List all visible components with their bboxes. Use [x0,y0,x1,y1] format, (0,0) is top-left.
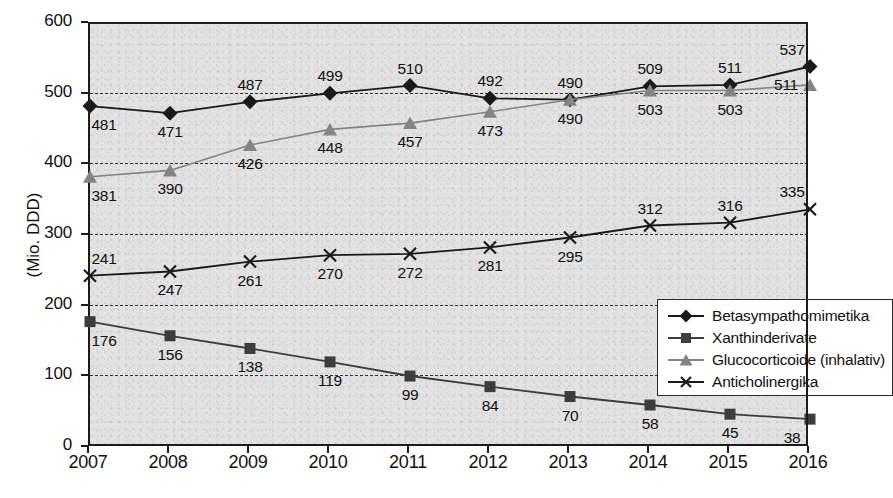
data-point-label: 241 [81,250,127,268]
plot-right-border [806,22,808,446]
data-point-label: 509 [627,60,673,78]
x-axis-tick-label: 2010 [288,452,368,473]
data-point-label: 156 [147,346,193,364]
data-point-label: 247 [147,281,193,299]
data-point-label: 511 [707,59,753,77]
data-point-label: 272 [387,264,433,282]
y-axis-title: (Mio. DDD) [24,165,44,305]
cross-icon [666,373,706,391]
data-point-label: 381 [81,187,127,205]
data-point-label: 487 [227,76,273,94]
data-point-label: 473 [467,122,513,140]
legend-label: Anticholinergika [712,373,818,391]
data-point-label: 70 [547,407,593,425]
legend-item-anticholinergika[interactable]: Anticholinergika [666,371,884,393]
data-point-label: 426 [227,155,273,173]
data-point-label: 119 [307,372,353,390]
x-axis-tick-label: 2009 [208,452,288,473]
triangle-icon [666,351,706,369]
data-point-label: 537 [769,41,815,59]
legend: Betasympathomimetika Xanthinderivate [657,299,893,396]
y-axis-tick-label: 500 [10,82,72,102]
x-axis-tick-mark [807,446,809,453]
legend-label: Xanthinderivate [712,329,817,347]
x-axis-tick-mark [87,446,89,453]
x-axis-tick-mark [487,446,489,453]
x-axis-tick-mark [647,446,649,453]
x-axis-tick-mark [727,446,729,453]
x-axis-tick-label: 2014 [608,452,688,473]
x-axis-tick-mark [167,446,169,453]
data-point-label: 503 [707,101,753,119]
data-point-label: 503 [627,101,673,119]
plot-area: 4814714874995104924905095115371761561381… [88,22,808,446]
data-point-label: 499 [307,67,353,85]
data-point-label: 295 [547,248,593,266]
diamond-icon [666,307,706,325]
x-axis-tick-label: 2016 [768,452,848,473]
legend-item-xanthinderivate[interactable]: Xanthinderivate [666,327,884,349]
legend-item-betasympathomimetika[interactable]: Betasympathomimetika [666,305,884,327]
y-axis-tick-mark [81,21,88,23]
legend-item-glucocorticoide[interactable]: Glucocorticoide (inhalativ) [666,349,884,371]
x-axis-tick-mark [567,446,569,453]
square-icon [666,329,706,347]
y-axis-tick-mark [81,304,88,306]
data-point-label: 312 [627,200,673,218]
data-point-label: 490 [547,110,593,128]
data-point-label: 138 [227,358,273,376]
x-axis-tick-label: 2015 [688,452,768,473]
data-point-label: 390 [147,180,193,198]
data-point-label: 38 [769,429,815,447]
y-axis-tick-label: 600 [10,11,72,31]
data-point-label: 261 [227,272,273,290]
legend-label: Betasympathomimetika [712,307,869,325]
x-axis-tick-label: 2008 [128,452,208,473]
x-axis-tick-mark [407,446,409,453]
data-point-label: 492 [467,72,513,90]
data-point-label: 281 [467,257,513,275]
x-axis-tick-label: 2012 [448,452,528,473]
y-axis-title-text: (Mio. DDD) [24,193,43,278]
data-point-label: 335 [769,183,815,201]
legend-label: Glucocorticoide (inhalativ) [712,351,885,369]
data-point-label: 510 [387,60,433,78]
data-point-label: 457 [387,133,433,151]
x-axis-tick-mark [327,446,329,453]
data-point-label: 99 [387,386,433,404]
data-point-label: 490 [547,74,593,92]
data-point-label: 471 [147,123,193,141]
x-axis-tick-label: 2011 [368,452,448,473]
x-axis-tick-mark [247,446,249,453]
y-axis-tick-label: 100 [10,364,72,384]
data-point-label: 84 [467,397,513,415]
y-axis-tick-mark [81,92,88,94]
plot-top-border [88,22,808,24]
data-point-label: 316 [707,197,753,215]
y-axis-tick-mark [81,233,88,235]
data-point-label: 176 [81,332,127,350]
y-axis-tick-mark [81,162,88,164]
data-point-label: 448 [307,139,353,157]
x-axis-tick-label: 2007 [48,452,128,473]
x-axis-tick-label: 2013 [528,452,608,473]
data-point-label: 481 [81,116,127,134]
y-axis-tick-mark [81,374,88,376]
data-point-label: 45 [707,424,753,442]
data-point-label: 511 [763,76,809,94]
data-point-label: 270 [307,265,353,283]
data-point-label: 58 [627,415,673,433]
